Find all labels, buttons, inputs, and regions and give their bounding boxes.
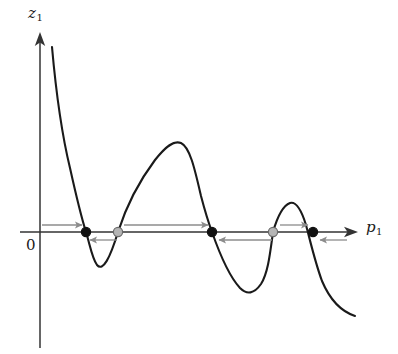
equilibrium-point-unstable <box>268 227 277 236</box>
x-axis-label-text: p <box>366 218 376 236</box>
equilibrium-point-unstable <box>113 227 122 236</box>
y-axis-label: z1 <box>28 6 42 21</box>
x-axis-label: p1 <box>366 220 382 235</box>
origin-label: 0 <box>26 238 36 253</box>
y-axis <box>35 32 45 348</box>
equilibrium-point-stable <box>308 227 317 236</box>
x-axis-label-subscript: 1 <box>376 226 382 237</box>
function-curve <box>52 47 355 316</box>
phase-line-figure: z1 p1 0 <box>0 0 398 354</box>
equilibrium-point-stable <box>207 227 216 236</box>
y-axis-label-subscript: 1 <box>36 12 42 23</box>
equilibrium-point-stable <box>81 227 90 236</box>
phase-line-plot <box>0 0 398 354</box>
y-axis-label-text: z <box>28 4 36 22</box>
